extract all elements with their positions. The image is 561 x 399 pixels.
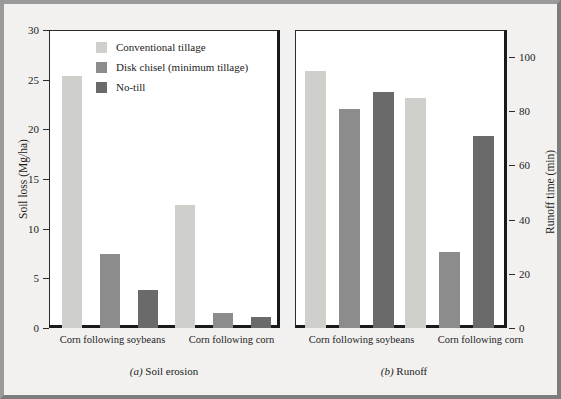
y-tick-mark [43,278,49,279]
legend: Conventional tillageDisk chisel (minimum… [96,39,248,99]
y-tick-label: 0 [7,323,39,334]
y-tick-label: 20 [519,269,551,280]
legend-swatch-icon [96,42,107,53]
y-tick-label: 25 [7,75,39,86]
y-tick-mark [43,80,49,81]
bar-panel_a-g1-s0 [175,205,195,328]
y-tick-mark [509,111,515,112]
figure-container: 051015202530 Soil loss (Mg/ha) Corn foll… [0,0,561,399]
legend-item-0: Conventional tillage [96,39,248,55]
y-tick-mark [509,220,515,221]
legend-label: No-till [116,82,145,93]
panel-caption-a: (a) Soil erosion [64,366,264,377]
y-axis-title-soil-loss: Soil loss (Mg/ha) [18,139,30,219]
y-tick-label: 30 [7,25,39,36]
legend-swatch-icon [96,62,107,73]
y-tick-mark [43,30,49,31]
bar-panel_a-g0-s2 [138,290,158,328]
bar-panel_b-g0-s1 [339,109,360,328]
bar-panel_a-g0-s0 [62,76,82,328]
panel-caption-b-text: Runoff [396,365,427,377]
y-tick-label: 80 [519,106,551,117]
panel-caption-b: (b) Runoff [304,366,504,377]
y-tick-label: 100 [519,52,551,63]
panel-caption-a-text: Soil erosion [145,365,198,377]
category-label-corn-b: Corn following corn [418,335,543,346]
y-tick-label: 5 [7,273,39,284]
bar-panel_a-g0-s1 [100,254,120,328]
panel-caption-b-prefix: (b) [381,365,394,377]
y-tick-mark [509,328,515,329]
legend-item-2: No-till [96,79,248,95]
category-label-corn-a: Corn following corn [169,335,294,346]
bar-panel_b-g0-s0 [305,71,326,328]
y-tick-label: 0 [519,323,551,334]
bar-panel_b-g1-s2 [473,136,494,328]
bar-panel_a-g1-s2 [251,317,271,328]
y-tick-label: 20 [7,124,39,135]
legend-label: Conventional tillage [116,42,206,53]
y-tick-mark [509,274,515,275]
bar-panel_b-g1-s1 [439,252,460,328]
category-label-soybeans-b: Corn following soybeans [289,335,434,346]
y-tick-mark [43,229,49,230]
bar-panel_a-g1-s1 [213,313,233,328]
y-axis-title-runoff-time: Runoff time (min) [545,150,557,234]
y-tick-label: 10 [7,224,39,235]
y-tick-mark [43,129,49,130]
y-tick-mark [509,165,515,166]
bar-panel_b-g1-s0 [405,98,426,328]
y-tick-mark [509,57,515,58]
legend-item-1: Disk chisel (minimum tillage) [96,59,248,75]
legend-swatch-icon [96,82,107,93]
legend-label: Disk chisel (minimum tillage) [116,62,248,73]
category-label-soybeans-a: Corn following soybeans [40,335,185,346]
panel-caption-a-prefix: (a) [130,365,143,377]
bar-panel_b-g0-s2 [373,92,394,328]
y-tick-mark [43,328,49,329]
y-tick-mark [43,179,49,180]
